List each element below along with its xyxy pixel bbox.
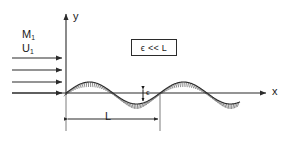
wavelength-dimension	[66, 95, 160, 131]
wavy-wall-surface	[64, 82, 240, 109]
hatch-tick	[233, 104, 234, 109]
hatch-tick	[86, 82, 87, 87]
wavy-wall-diagram: M1 U1 y x L ϵ ϵ << L	[0, 0, 287, 143]
scale-assumption-box: ϵ << L	[131, 39, 177, 56]
inflow-arrows	[12, 58, 62, 93]
hatch-tick	[132, 104, 133, 109]
y-axis-label: y	[73, 11, 79, 22]
hatch-tick	[228, 104, 229, 109]
wavelength-label: L	[105, 111, 111, 122]
diagram-graphics	[0, 0, 287, 143]
x-axis-label: x	[272, 86, 278, 97]
hatch-tick	[92, 82, 93, 87]
velocity-label: U1	[22, 43, 34, 54]
amplitude-label: ϵ	[146, 89, 150, 97]
hatch-tick	[181, 82, 182, 87]
hatch-tick	[187, 82, 188, 87]
mach-number-label: M1	[22, 29, 35, 40]
hatch-tick	[139, 104, 140, 109]
hatch-tick	[134, 104, 135, 109]
wall-hatching	[64, 82, 239, 109]
hatch-tick	[226, 104, 227, 109]
scale-assumption-text: ϵ << L	[132, 40, 176, 55]
